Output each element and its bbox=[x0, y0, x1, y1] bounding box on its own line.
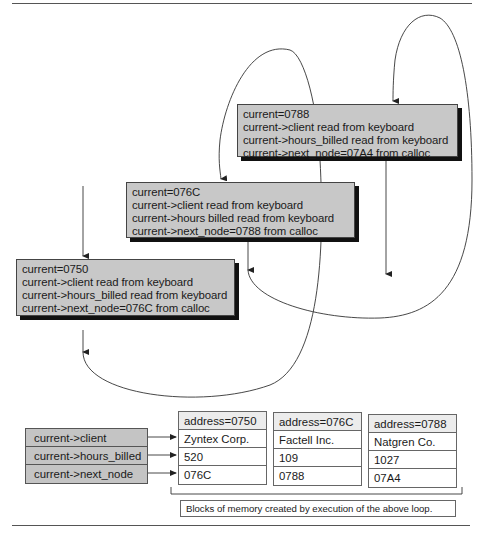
state-line: current->hours_billed read from keyboard bbox=[22, 289, 230, 302]
block-hours-billed: 1027 bbox=[369, 451, 456, 469]
block-client: Zyntex Corp. bbox=[179, 430, 266, 448]
state-line: current->next_node=07A4 from calloc bbox=[243, 147, 453, 160]
block-address: address=0788 bbox=[369, 415, 456, 433]
state-line: current->hours_billed read from keyboard bbox=[243, 134, 453, 147]
bottom-rule bbox=[12, 525, 470, 526]
block-hours-billed: 520 bbox=[179, 448, 266, 466]
block-next-node: 076C bbox=[179, 466, 266, 484]
block-next-node: 0788 bbox=[274, 467, 361, 485]
pointer-field-labels: current->client current->hours_billed cu… bbox=[25, 428, 148, 484]
block-client: Natgren Co. bbox=[369, 433, 456, 451]
state-line: current=0788 bbox=[243, 108, 453, 121]
memory-block-0750: address=0750 Zyntex Corp. 520 076C bbox=[178, 411, 267, 485]
memory-block-0788: address=0788 Natgren Co. 1027 07A4 bbox=[368, 414, 457, 488]
loop-arrow-2 bbox=[248, 15, 472, 318]
state-line: current->next_node=0788 from calloc bbox=[132, 225, 350, 238]
block-client: Factell Inc. bbox=[274, 431, 361, 449]
block-address: address=0750 bbox=[179, 412, 266, 430]
loop-state-box-0750: current=0750 current->client read from k… bbox=[16, 259, 235, 316]
memory-caption: Blocks of memory created by execution of… bbox=[180, 500, 456, 517]
field-label-client: current->client bbox=[26, 429, 147, 447]
block-address: address=076C bbox=[274, 413, 361, 431]
loop-state-box-0788: current=0788 current->client read from k… bbox=[237, 104, 458, 157]
block-hours-billed: 109 bbox=[274, 449, 361, 467]
state-line: current->client read from keyboard bbox=[243, 121, 453, 134]
loop-state-box-076C: current=076C current->client read from k… bbox=[126, 182, 355, 238]
state-line: current=076C bbox=[132, 186, 350, 199]
field-label-next-node: current->next_node bbox=[26, 465, 147, 483]
memory-bracket bbox=[171, 487, 462, 494]
state-line: current->next_node=076C from calloc bbox=[22, 302, 230, 315]
block-next-node: 07A4 bbox=[369, 469, 456, 487]
state-line: current->client read from keyboard bbox=[132, 199, 350, 212]
state-line: current->hours billed read from keyboard bbox=[132, 212, 350, 225]
field-label-hours-billed: current->hours_billed bbox=[26, 447, 147, 465]
state-line: current=0750 bbox=[22, 263, 230, 276]
memory-block-076C: address=076C Factell Inc. 109 0788 bbox=[273, 412, 362, 486]
state-line: current->client read from keyboard bbox=[22, 276, 230, 289]
